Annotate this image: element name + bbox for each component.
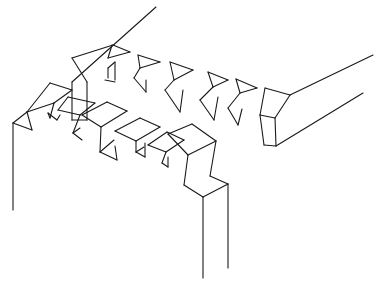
- edge-line: [236, 79, 257, 88]
- edge-line: [162, 163, 168, 167]
- edge-line: [107, 102, 127, 111]
- edge-line: [228, 93, 240, 108]
- edge-line: [115, 146, 117, 160]
- edge-line: [260, 115, 275, 118]
- edge-line: [210, 141, 216, 176]
- edge-line: [208, 72, 228, 80]
- edge-line: [210, 176, 228, 184]
- edge-line: [184, 155, 188, 185]
- edge-line: [134, 78, 146, 92]
- edge-line: [13, 123, 32, 130]
- edge-line: [100, 152, 117, 160]
- edge-line: [113, 45, 130, 52]
- edge-line: [260, 88, 265, 115]
- edge-line: [290, 55, 373, 95]
- edge-line: [100, 127, 101, 152]
- edge-line: [264, 145, 276, 146]
- edge-line: [168, 124, 192, 134]
- edge-line: [238, 109, 242, 125]
- edge-line: [200, 100, 214, 120]
- edge-line: [260, 115, 264, 145]
- edge-line: [134, 68, 140, 78]
- edge-line: [58, 110, 80, 115]
- edge-line: [140, 118, 160, 127]
- edge-line: [115, 131, 136, 141]
- edge-line: [140, 62, 160, 68]
- edge-line: [115, 118, 140, 131]
- lower-board-pins: [13, 83, 228, 278]
- edge-line: [54, 90, 72, 103]
- edge-line: [240, 88, 257, 93]
- edge-line: [228, 108, 238, 125]
- edge-line: [213, 80, 228, 87]
- edge-line: [170, 62, 174, 80]
- edge-line: [214, 97, 218, 120]
- edge-line: [138, 55, 160, 62]
- edge-line: [174, 70, 193, 80]
- edge-line: [72, 7, 156, 82]
- edge-line: [162, 152, 166, 163]
- edge-line: [73, 133, 82, 140]
- edge-line: [275, 118, 276, 146]
- edge-line: [165, 80, 174, 90]
- edge-line: [108, 62, 115, 68]
- edge-line: [50, 83, 72, 90]
- edge-line: [82, 115, 101, 127]
- edge-line: [200, 87, 213, 100]
- edge-line: [148, 145, 166, 152]
- edge-line: [105, 80, 115, 82]
- edge-line: [170, 62, 193, 70]
- edge-line: [265, 88, 290, 95]
- edge-line: [27, 112, 32, 130]
- edge-line: [236, 79, 240, 93]
- edge-line: [57, 115, 60, 120]
- upper-board-tails: [72, 7, 373, 146]
- edge-line: [13, 112, 27, 123]
- edge-line: [184, 185, 203, 197]
- edge-line: [108, 52, 130, 58]
- edge-line: [138, 55, 140, 68]
- edge-line: [276, 93, 363, 146]
- edge-line: [203, 184, 228, 197]
- edge-line: [192, 124, 216, 141]
- edge-line: [136, 152, 145, 157]
- edge-line: [188, 141, 216, 155]
- dovetail-joint-diagram: [0, 0, 385, 293]
- edge-line: [100, 140, 114, 152]
- line-art-svg: [0, 0, 385, 293]
- edge-line: [148, 132, 167, 145]
- edge-line: [275, 95, 290, 118]
- edge-line: [101, 111, 127, 127]
- edge-line: [180, 90, 183, 112]
- edge-line: [165, 90, 180, 112]
- edge-line: [136, 147, 144, 152]
